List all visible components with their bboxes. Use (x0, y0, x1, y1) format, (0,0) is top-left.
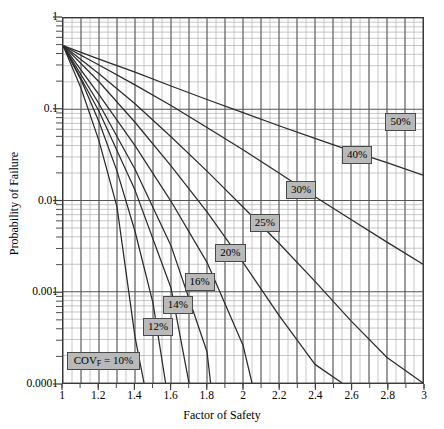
callout-10pct: COVF = 10% (67, 352, 141, 370)
callout-50pct: 50% (385, 113, 415, 131)
curve-10pct (63, 45, 144, 383)
y-tick-label: 1 (4, 11, 58, 23)
callout-25pct: 25% (250, 214, 280, 232)
callout-12pct: 12% (143, 318, 173, 336)
callout-40pct: 40% (342, 146, 372, 164)
callout-20pct: 20% (215, 244, 245, 262)
callout-16pct: 16% (185, 273, 215, 291)
curve-30pct (63, 45, 423, 383)
curve-25pct (63, 45, 342, 383)
curve-layer (63, 18, 423, 383)
callout-14pct: 14% (163, 296, 193, 314)
y-axis-title: Probability of Failure (7, 104, 22, 304)
x-axis-title: Factor of Safety (0, 408, 444, 423)
plot-area (62, 17, 424, 384)
callout-30pct: 30% (286, 181, 316, 199)
curve-16pct (63, 45, 211, 383)
chart-figure: 10.10.010.0010.0001 11.21.41.61.822.22.4… (0, 0, 444, 429)
